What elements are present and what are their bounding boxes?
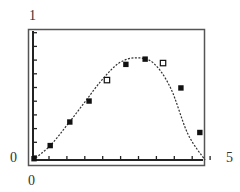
y-min-label: 0: [10, 151, 17, 165]
filled-square-marker: [48, 143, 53, 148]
open-square-marker: [104, 77, 109, 82]
fitted-curve: [33, 58, 205, 160]
data-point-markers: [31, 56, 202, 161]
filled-square-marker: [123, 62, 128, 67]
open-square-marker: [160, 60, 165, 65]
filled-square-marker: [178, 85, 183, 90]
chart-canvas: [0, 0, 240, 192]
filled-square-marker: [86, 98, 91, 103]
x-min-label: 0: [28, 174, 35, 188]
filled-square-marker: [67, 119, 72, 124]
x-max-label: 5: [226, 151, 233, 165]
filled-square-marker: [197, 130, 202, 135]
plot-frame: [29, 30, 205, 166]
filled-square-marker: [31, 156, 36, 161]
filled-square-marker: [142, 56, 147, 61]
y-max-label: 1: [29, 9, 36, 23]
